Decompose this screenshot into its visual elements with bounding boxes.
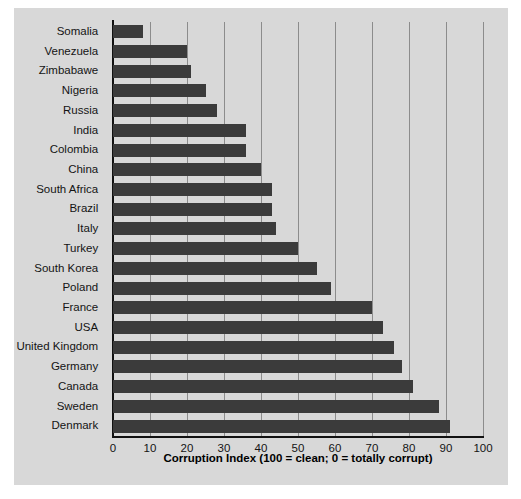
bar-row: China (113, 160, 483, 180)
bar-row: France (113, 298, 483, 318)
bar-row: South Korea (113, 259, 483, 279)
corruption-index-bar-chart: SomaliaVenezuelaZimbabaweNigeriaRussiaIn… (14, 8, 508, 485)
category-label-denmark: Denmark (52, 416, 99, 436)
category-label-venezuela: Venezuela (44, 42, 98, 62)
category-label-russia: Russia (63, 101, 98, 121)
bar-row: USA (113, 318, 483, 338)
x-axis-title: Corruption Index (100 = clean; 0 = total… (113, 452, 483, 464)
category-label-south-africa: South Africa (36, 180, 98, 200)
category-label-zimbabawe: Zimbabawe (39, 61, 98, 81)
bar-row: Brazil (113, 199, 483, 219)
category-label-italy: Italy (77, 219, 98, 239)
bar-canada (113, 380, 413, 393)
bar-brazil (113, 203, 272, 216)
bar-venezuela (113, 45, 187, 58)
bar-nigeria (113, 84, 206, 97)
bar-zimbabawe (113, 65, 191, 78)
bar-usa (113, 321, 383, 334)
plot-area: SomaliaVenezuelaZimbabaweNigeriaRussiaIn… (113, 22, 483, 436)
bar-poland (113, 282, 331, 295)
category-label-germany: Germany (51, 357, 98, 377)
bar-united-kingdom (113, 341, 394, 354)
category-label-canada: Canada (58, 377, 98, 397)
bar-russia (113, 104, 217, 117)
bar-turkey (113, 242, 298, 255)
bar-south-africa (113, 183, 272, 196)
gridline-100 (483, 22, 484, 436)
bar-row: Colombia (113, 140, 483, 160)
bar-row: Russia (113, 101, 483, 121)
bar-france (113, 301, 372, 314)
category-label-nigeria: Nigeria (62, 81, 98, 101)
x-axis-line (112, 436, 484, 438)
bar-row: Italy (113, 219, 483, 239)
category-label-poland: Poland (62, 278, 98, 298)
category-label-turkey: Turkey (63, 239, 98, 259)
bar-row: South Africa (113, 180, 483, 200)
bar-row: Nigeria (113, 81, 483, 101)
bar-row: Turkey (113, 239, 483, 259)
bar-row: Venezuela (113, 42, 483, 62)
bar-row: Germany (113, 357, 483, 377)
bar-south-korea (113, 262, 317, 275)
category-label-south-korea: South Korea (34, 259, 98, 279)
bar-row: Sweden (113, 397, 483, 417)
category-label-colombia: Colombia (50, 140, 99, 160)
bar-china (113, 163, 261, 176)
bar-colombia (113, 144, 246, 157)
category-label-united-kingdom: United Kingdom (16, 337, 98, 357)
bar-somalia (113, 25, 143, 38)
category-label-sweden: Sweden (57, 397, 99, 417)
bar-india (113, 124, 246, 137)
bar-row: India (113, 121, 483, 141)
bar-row: Poland (113, 278, 483, 298)
bar-italy (113, 222, 276, 235)
category-label-india: India (73, 121, 98, 141)
category-label-somalia: Somalia (57, 22, 99, 42)
bar-row: Denmark (113, 416, 483, 436)
category-label-brazil: Brazil (69, 199, 98, 219)
bar-sweden (113, 400, 439, 413)
category-label-china: China (68, 160, 98, 180)
bar-row: Somalia (113, 22, 483, 42)
bar-row: United Kingdom (113, 337, 483, 357)
bar-germany (113, 360, 402, 373)
bar-row: Canada (113, 377, 483, 397)
category-label-france: France (62, 298, 98, 318)
bar-denmark (113, 420, 450, 433)
category-label-usa: USA (75, 318, 99, 338)
bar-row: Zimbabawe (113, 61, 483, 81)
